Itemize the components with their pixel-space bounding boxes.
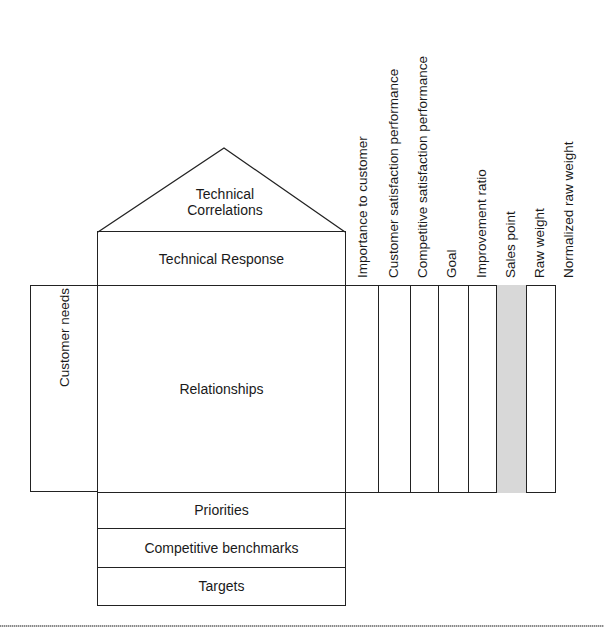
planning-column-competitive-satisfaction <box>410 285 439 493</box>
priorities-label: Priorities <box>97 502 346 518</box>
planning-column-raw-weight <box>526 285 555 493</box>
header-sales-point: Sales point <box>503 211 518 278</box>
planning-column-importance <box>345 285 379 493</box>
customer-needs-label: Customer needs <box>57 288 72 387</box>
header-raw-weight: Raw weight <box>532 208 547 278</box>
header-normalized-raw-weight: Normalized raw weight <box>561 141 576 278</box>
relationships-label: Relationships <box>97 381 346 397</box>
planning-column-improvement-ratio <box>468 285 497 493</box>
roof-label-text: TechnicalCorrelations <box>187 186 262 218</box>
page-divider <box>0 625 604 627</box>
planning-column-goal <box>438 285 469 493</box>
header-improvement-ratio: Improvement ratio <box>474 169 489 278</box>
header-competitive-satisfaction: Competitive satisfaction performance <box>415 56 430 278</box>
header-importance: Importance to customer <box>355 136 370 278</box>
targets-label: Targets <box>97 578 346 594</box>
competitive-benchmarks-label: Competitive benchmarks <box>97 540 346 556</box>
roof-label: TechnicalCorrelations <box>150 186 300 218</box>
planning-column-sales-point <box>496 285 527 493</box>
header-customer-satisfaction: Customer satisfaction performance <box>386 69 401 278</box>
planning-column-customer-satisfaction <box>378 285 411 493</box>
header-goal: Goal <box>444 249 459 278</box>
technical-response-label: Technical Response <box>97 251 346 267</box>
